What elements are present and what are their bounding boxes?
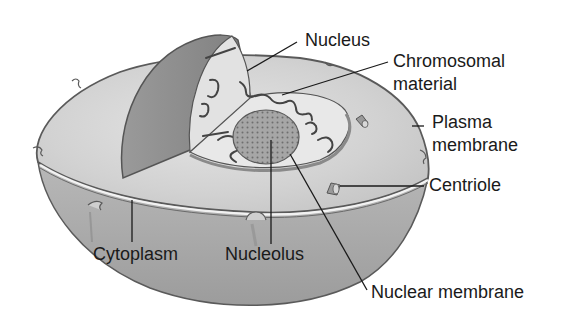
cell-illustration [0, 0, 581, 319]
cell-diagram: Nucleus Chromosomal material Plasma memb… [0, 0, 581, 319]
nucleus [122, 35, 350, 178]
label-chromosomal-material-line2: material [393, 73, 457, 95]
label-nucleus: Nucleus [305, 29, 370, 51]
label-plasma-membrane-line1: Plasma [432, 111, 492, 133]
label-cytoplasm: Cytoplasm [93, 243, 178, 265]
label-centriole: Centriole [429, 174, 501, 196]
label-chromosomal-material-line1: Chromosomal [393, 50, 505, 72]
nucleolus [233, 110, 299, 164]
label-nucleolus: Nucleolus [225, 243, 304, 265]
label-plasma-membrane-line2: membrane [432, 134, 518, 156]
label-nuclear-membrane: Nuclear membrane [371, 281, 524, 303]
